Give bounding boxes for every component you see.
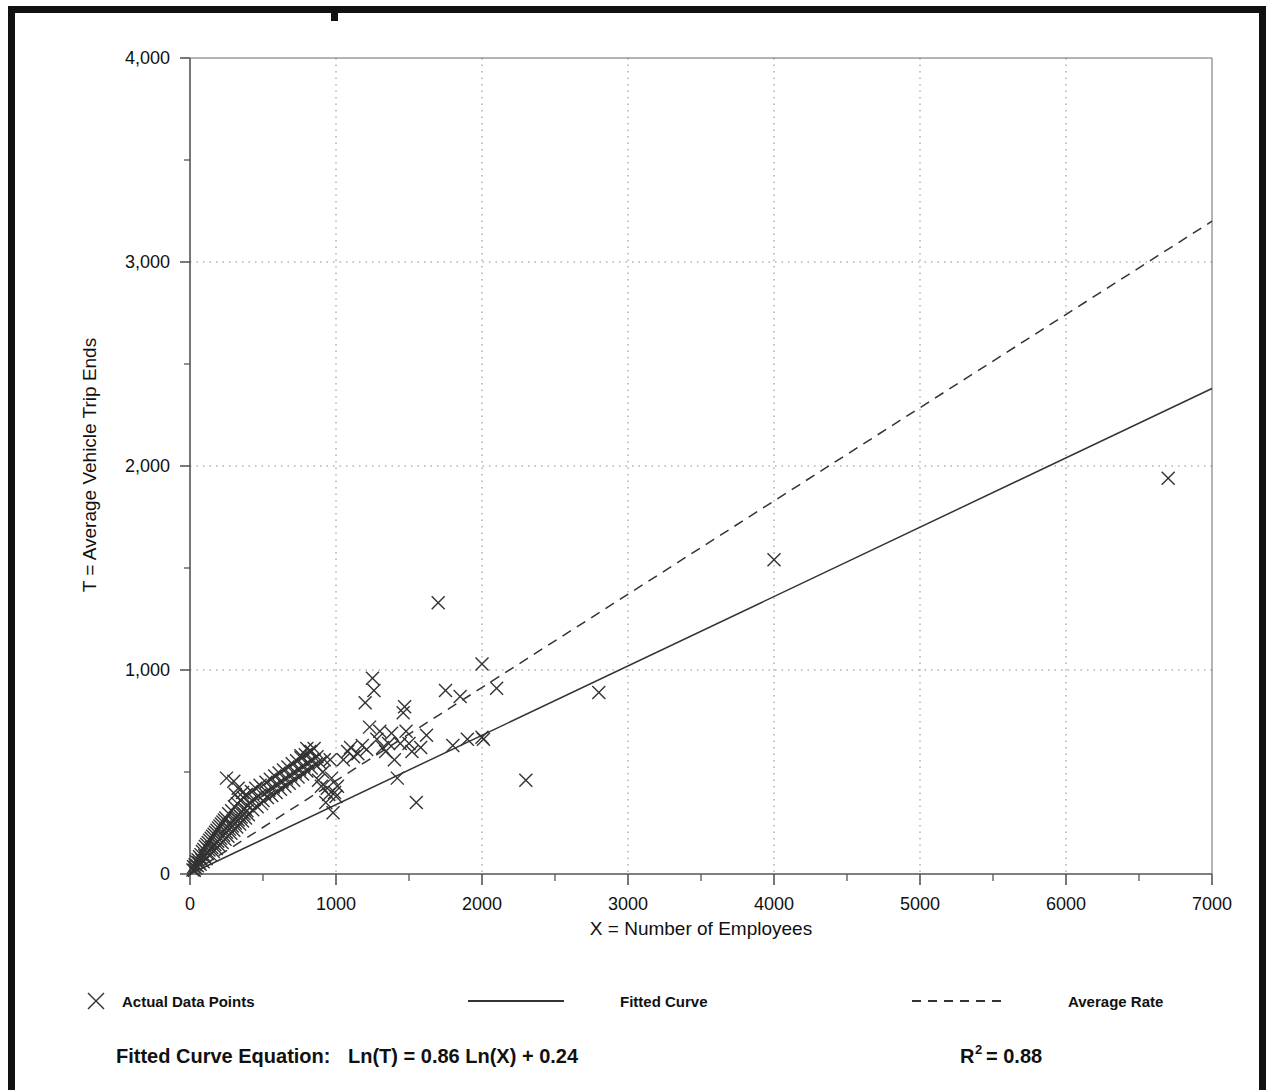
data-point-marker xyxy=(388,753,401,766)
data-point-marker xyxy=(1162,472,1175,485)
x-axis-title: X = Number of Employees xyxy=(590,918,812,939)
x-tick-label: 7000 xyxy=(1192,894,1232,914)
data-point-marker xyxy=(420,729,433,742)
equation-prefix: Fitted Curve Equation: xyxy=(116,1045,330,1067)
chart-legend: Actual Data PointsFitted CurveAverage Ra… xyxy=(88,993,1163,1010)
data-point-marker xyxy=(327,806,340,819)
y-tick-label: 2,000 xyxy=(125,456,170,476)
legend-label: Actual Data Points xyxy=(122,993,255,1010)
data-point-marker xyxy=(344,741,357,754)
data-point-marker xyxy=(768,553,781,566)
data-point-marker xyxy=(476,657,489,670)
y-axis-title: T = Average Vehicle Trip Ends xyxy=(79,338,100,592)
data-point-marker xyxy=(359,696,372,709)
y-tick-label: 4,000 xyxy=(125,48,170,68)
data-point-marker xyxy=(367,684,380,697)
fitted-curve-line xyxy=(190,388,1212,874)
y-tick-label: 1,000 xyxy=(125,660,170,680)
data-points xyxy=(186,472,1174,877)
data-point-marker xyxy=(331,780,344,793)
data-point-marker xyxy=(454,690,467,703)
equation-formula: Ln(T) = 0.86 Ln(X) + 0.24 xyxy=(348,1045,579,1067)
data-point-marker xyxy=(347,750,360,763)
x-tick-label: 6000 xyxy=(1046,894,1086,914)
legend-item: Actual Data Points xyxy=(88,993,255,1010)
r-squared-symbol: R xyxy=(960,1045,975,1067)
legend-item: Fitted Curve xyxy=(468,993,708,1010)
data-point-marker xyxy=(490,682,503,695)
x-tick-label: 2000 xyxy=(462,894,502,914)
r-squared-value: = 0.88 xyxy=(986,1045,1042,1067)
y-tick-label: 0 xyxy=(160,864,170,884)
legend-item: Average Rate xyxy=(912,993,1163,1010)
data-point-marker xyxy=(324,753,337,766)
legend-label: Fitted Curve xyxy=(620,993,708,1010)
data-point-marker xyxy=(385,727,398,740)
tick-marks xyxy=(180,58,1212,885)
data-point-marker xyxy=(363,721,376,734)
x-tick-label: 0 xyxy=(185,894,195,914)
x-tick-label: 1000 xyxy=(316,894,356,914)
trend-lines xyxy=(190,221,1212,874)
legend-label: Average Rate xyxy=(1068,993,1163,1010)
x-tick-label: 3000 xyxy=(608,894,648,914)
data-point-marker xyxy=(366,672,379,685)
scatter-chart: 01,0002,0003,0004,0000100020003000400050… xyxy=(0,0,1280,1090)
data-point-marker xyxy=(592,686,605,699)
r-squared-exponent: 2 xyxy=(975,1042,982,1057)
y-tick-label: 3,000 xyxy=(125,252,170,272)
x-tick-label: 4000 xyxy=(754,894,794,914)
data-point-marker xyxy=(410,796,423,809)
average-rate-line xyxy=(190,221,1212,874)
axes xyxy=(190,58,1212,874)
data-point-marker xyxy=(432,596,445,609)
data-point-marker xyxy=(446,739,459,752)
data-point-marker xyxy=(519,774,532,787)
grid-lines xyxy=(190,58,1212,874)
x-tick-label: 5000 xyxy=(900,894,940,914)
data-point-marker xyxy=(439,684,452,697)
data-point-marker xyxy=(325,772,338,785)
